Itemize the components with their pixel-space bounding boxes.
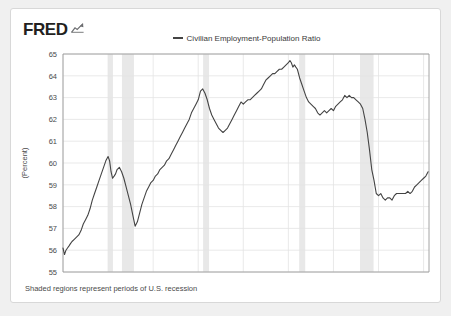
x-tick-label: 2000: [280, 277, 297, 279]
y-tick-label: 61: [49, 137, 57, 146]
x-tick-label: 2005: [325, 277, 342, 279]
chart-header: FRED Civilian Employment-Population Rati…: [11, 9, 441, 43]
x-tick-label: 1985: [145, 277, 162, 279]
plot-area: 5556575859606162636465 19751980198519901…: [11, 39, 441, 279]
fred-chart-card: FRED Civilian Employment-Population Rati…: [10, 8, 441, 303]
y-axis-title: (Percent): [20, 147, 29, 178]
x-axis-tick-labels: 197519801985199019952000200520102015: [55, 277, 432, 279]
y-axis-title-text: (Percent): [20, 147, 29, 178]
y-tick-label: 63: [49, 93, 57, 102]
y-tick-label: 59: [49, 181, 57, 190]
x-tick-label: 1990: [190, 277, 207, 279]
y-axis-tick-labels: 5556575859606162636465: [49, 50, 57, 277]
line-chart-svg: 5556575859606162636465 19751980198519901…: [11, 39, 441, 279]
gridlines: [63, 54, 429, 272]
y-tick-label: 57: [49, 224, 57, 233]
x-tick-label: 1975: [55, 277, 72, 279]
recession-footnote: Shaded regions represent periods of U.S.…: [25, 284, 197, 293]
y-tick-label: 65: [49, 50, 57, 59]
y-tick-label: 58: [49, 202, 57, 211]
y-tick-label: 55: [49, 268, 57, 277]
x-tick-label: 1995: [235, 277, 252, 279]
x-tick-label: 2015: [415, 277, 432, 279]
x-tick-label: 2010: [370, 277, 387, 279]
y-tick-label: 56: [49, 246, 57, 255]
y-tick-label: 64: [49, 72, 57, 81]
screenshot-root: FRED Civilian Employment-Population Rati…: [0, 0, 451, 316]
x-tick-label: 1980: [100, 277, 117, 279]
y-tick-label: 60: [49, 159, 57, 168]
y-tick-label: 62: [49, 115, 57, 124]
